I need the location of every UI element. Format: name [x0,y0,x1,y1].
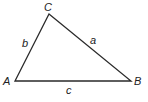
triangle-abc [15,14,131,81]
triangle-diagram: C A B b a c [0,0,148,102]
vertex-label-c: C [44,1,52,13]
vertex-label-a: A [2,75,10,87]
vertex-label-b: B [134,75,141,87]
side-label-b: b [22,37,28,49]
side-label-a: a [90,34,96,46]
side-label-c: c [66,84,72,96]
